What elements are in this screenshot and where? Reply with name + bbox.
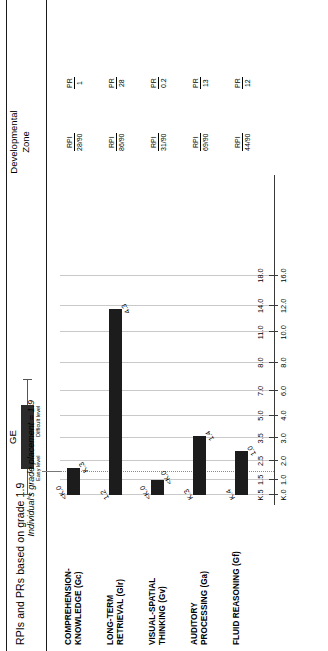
score-report-chart: RPIs and PRs based on grade 1.9 GE Easy … [0,0,328,651]
x-axis-tick-lower [274,479,278,480]
pr-stat-label: PR [234,77,243,89]
row-name-label: AUDITORY PROCESSING (Ga) [190,513,210,645]
x-axis-tick-label-upper: 18.0 [256,268,265,282]
rpi-stat: RPI69/90 [192,133,210,151]
x-axis-tick-lower [274,437,278,438]
chart-row: 1.24.3 [104,175,130,505]
pr-stat-label: PR [192,77,201,89]
pr-stat: PR12 [234,77,252,89]
x-axis-tick-label-lower: 4.0 [279,410,288,420]
row-name-label: COMPREHENSION- KNOWLEDGE (Gc) [64,513,84,645]
x-axis-tick-lower [274,390,278,391]
rpi-stat-label: RPI [234,133,243,151]
x-axis-tick-label-upper: 2.5 [256,456,265,466]
pr-stat: PR13 [192,77,210,89]
row-name-label: VISUAL-SPATIAL THINKING (Gv) [148,513,168,645]
row-name-label: FLUID REASONING (Gf) [232,513,242,645]
x-axis-tick-lower [274,275,278,276]
rpi-stat: RPI28/90 [66,133,84,151]
developmental-zone-bar [67,468,80,495]
developmental-zone-line2: Zone [20,131,31,153]
ge-legend-cap-right [23,379,32,380]
rpi-stat-label: RPI [192,133,201,151]
x-axis-tick-label-lower: 12.0 [279,299,288,313]
x-axis-tick-label-lower: 3.0 [279,433,288,443]
rpi-stat-value: 31/90 [159,133,168,151]
rpi-stat-value: 86/90 [117,133,126,151]
x-axis-tick-label-lower: K.0 [279,489,288,500]
page-title: RPIs and PRs based on grade 1.9 [14,483,26,645]
rpi-stat-label: RPI [66,133,75,151]
row-name-label: LONG-TERM RETRIEVAL (Glr) [106,513,126,645]
pr-stat-value: 28 [117,77,126,89]
developmental-zone-line1: Developmental [8,110,19,173]
x-axis-tick-lower [274,494,278,495]
x-axis-tick-lower [274,415,278,416]
x-axis-tick-label-upper: 11.0 [256,325,265,339]
x-axis-tick-lower [274,362,278,363]
chart-row: K.31.4 [188,175,214,505]
rpi-stat-value: 44/90 [243,133,252,151]
x-axis-tick-lower [274,460,278,461]
pr-stat-label: PR [66,77,75,89]
pr-stat-label: PR [108,77,117,89]
pr-stat: PR28 [108,77,126,89]
ge-legend-title: GE [7,373,18,501]
chart-row: <K.0<K.0 [146,175,172,505]
developmental-zone-bar [193,436,206,495]
x-axis-tick-label-upper: 1.5 [256,475,265,485]
developmental-zone-bar [235,451,248,495]
rotated-report-stage: RPIs and PRs based on grade 1.9 GE Easy … [0,0,328,651]
x-axis-tick-label-lower: 1.0 [279,475,288,485]
pr-stat-value: 0.2 [159,77,168,89]
x-axis-tick-label-upper: 5.0 [256,410,265,420]
chart-row: K.41.0 [230,175,256,505]
rpi-stat-value: 28/90 [75,133,84,151]
developmental-zone-heading: Developmental Zone [8,86,32,198]
pr-stat-value: 12 [243,77,252,89]
pr-stat: PR1 [66,77,84,89]
x-axis-tick-label-lower: 6.0 [279,386,288,396]
grade-placement-annotation: Individual's grade placement = 1.9 [26,400,36,537]
rpi-stat: RPI44/90 [234,133,252,151]
x-axis-tick-label-lower: 16.0 [279,268,288,282]
x-axis-tick-label-lower: 10.0 [279,325,288,339]
pr-stat-label: PR [150,77,159,89]
rpi-stat-label: RPI [108,133,117,151]
rpi-stat-label: RPI [150,133,159,151]
x-axis-tick-label-upper: K.5 [256,489,265,500]
x-axis-tick-label-upper: 8.0 [256,357,265,367]
developmental-zone-bar [109,309,122,495]
x-axis-tick-label-upper: 7.0 [256,386,265,396]
rpi-stat: RPI86/90 [108,133,126,151]
chart-row: <K.0K.3 [62,175,88,505]
pr-stat: PR0.2 [150,77,168,89]
x-axis-tick-lower [274,305,278,306]
grade-placement-leader-line [42,471,60,472]
x-axis-tick-label-upper: 3.5 [256,433,265,443]
rpi-stat: RPI31/90 [150,133,168,151]
x-axis-tick-lower [274,331,278,332]
header-bottom-rule [46,0,47,651]
pr-stat-value: 13 [201,77,210,89]
x-axis-tick-label-upper: 14.0 [256,299,265,313]
x-axis-line [274,175,275,505]
developmental-zone-bar [151,480,164,495]
x-axis-tick-label-lower: 8.0 [279,357,288,367]
pr-stat-value: 1 [75,77,84,89]
plot-area: Individual's grade placement = 1.9 <K.0K… [60,175,318,505]
x-axis-tick-label-lower: 2.0 [279,456,288,466]
rpi-stat-value: 69/90 [201,133,210,151]
